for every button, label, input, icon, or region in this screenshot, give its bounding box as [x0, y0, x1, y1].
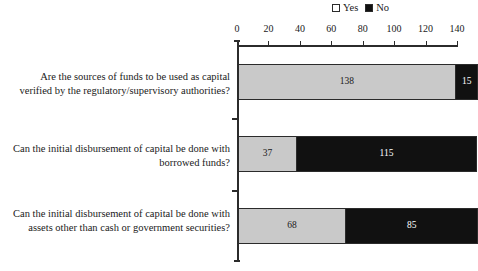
x-tick-label-140: 140 — [450, 23, 465, 34]
legend-label-yes: Yes — [343, 3, 358, 14]
bar-group-2: 37 115 — [238, 136, 477, 172]
category-label-1: Are the sources of funds to be used as c… — [8, 70, 230, 98]
x-axis-tick-labels: 0 20 40 60 80 100 120 140 — [237, 23, 457, 36]
bar-value-yes-1: 138 — [340, 77, 354, 87]
bar-segment-yes-3: 68 — [238, 208, 345, 244]
x-tick-label-80: 80 — [358, 23, 368, 34]
bar-group-3: 68 85 — [238, 208, 478, 244]
legend-entry-no: No — [365, 3, 389, 14]
bar-group-1: 138 15 — [238, 64, 478, 100]
x-tick-label-120: 120 — [418, 23, 433, 34]
legend-label-no: No — [376, 3, 389, 14]
bar-segment-no-1: 15 — [455, 64, 478, 100]
plot-area: 138 15 37 115 68 85 — [238, 46, 458, 262]
legend-swatch-yes — [332, 4, 340, 12]
bar-value-yes-2: 37 — [263, 149, 273, 159]
chart-legend: Yes No — [332, 3, 389, 14]
x-tick-label-20: 20 — [263, 23, 273, 34]
bar-segment-no-2: 115 — [296, 136, 477, 172]
category-label-3: Can the initial disbursement of capital … — [8, 207, 230, 235]
bar-value-yes-3: 68 — [287, 221, 297, 231]
bar-segment-yes-1: 138 — [238, 64, 455, 100]
legend-swatch-no — [365, 4, 373, 12]
x-tick-label-100: 100 — [387, 23, 402, 34]
category-label-2: Can the initial disbursement of capital … — [8, 142, 230, 170]
bar-value-no-2: 115 — [379, 149, 393, 159]
bar-value-no-3: 85 — [407, 221, 417, 231]
bar-value-no-1: 15 — [462, 77, 472, 87]
x-tick-label-0: 0 — [235, 23, 240, 34]
y-axis-top-cap — [234, 40, 240, 42]
bar-segment-no-3: 85 — [345, 208, 478, 244]
x-tick-label-60: 60 — [326, 23, 336, 34]
x-tick-label-40: 40 — [295, 23, 305, 34]
bar-segment-yes-2: 37 — [238, 136, 296, 172]
legend-entry-yes: Yes — [332, 3, 358, 14]
